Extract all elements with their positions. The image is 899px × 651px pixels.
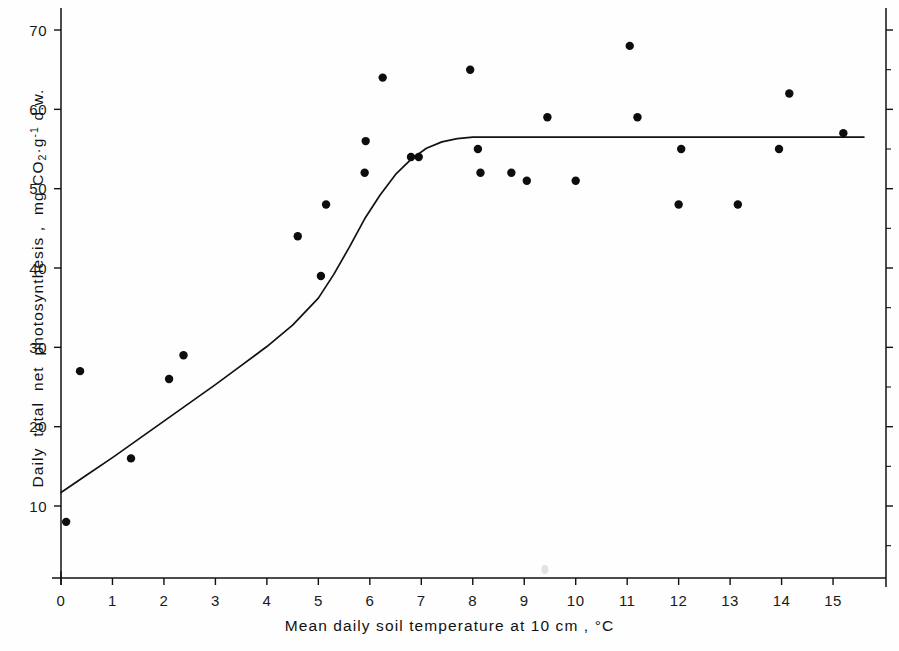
data-point bbox=[165, 375, 173, 383]
plot-background bbox=[0, 0, 899, 651]
data-point bbox=[572, 177, 580, 185]
x-tick-label: 12 bbox=[670, 592, 688, 609]
data-point bbox=[294, 232, 302, 240]
y-label-seg-4: d.w. bbox=[29, 89, 46, 121]
x-tick-label: 14 bbox=[773, 592, 791, 609]
y-label-superscript: -1 bbox=[28, 126, 40, 138]
data-point bbox=[734, 200, 742, 208]
x-tick-label: 10 bbox=[567, 592, 585, 609]
x-axis-label: Mean daily soil temperature at 10 cm , °… bbox=[0, 617, 899, 635]
x-tick-label: 2 bbox=[160, 592, 169, 609]
scan-artifact bbox=[541, 565, 548, 574]
data-point bbox=[378, 73, 386, 81]
x-tick-label: 3 bbox=[211, 592, 220, 609]
x-tick-label: 1 bbox=[108, 592, 117, 609]
data-point bbox=[415, 153, 423, 161]
data-point bbox=[476, 169, 484, 177]
data-point bbox=[474, 145, 482, 153]
data-point bbox=[507, 169, 515, 177]
y-axis-label-text: Daily total net photosynthesis , mg CO2·… bbox=[29, 89, 46, 488]
y-label-seg-2: ·g bbox=[29, 137, 46, 153]
data-point bbox=[360, 169, 368, 177]
data-point bbox=[626, 42, 634, 50]
x-tick-label: 15 bbox=[824, 592, 842, 609]
data-point bbox=[362, 137, 370, 145]
x-tick-label: 13 bbox=[721, 592, 739, 609]
y-axis-label: Daily total net photosynthesis , mg CO2·… bbox=[28, 8, 48, 568]
x-tick-label: 4 bbox=[262, 592, 271, 609]
data-point bbox=[179, 351, 187, 359]
x-tick-label: 9 bbox=[520, 592, 529, 609]
x-axis-label-text: Mean daily soil temperature at 10 cm , °… bbox=[285, 617, 615, 634]
y-label-subscript: 2 bbox=[36, 153, 48, 160]
data-point bbox=[76, 367, 84, 375]
data-point bbox=[633, 113, 641, 121]
data-point bbox=[466, 65, 474, 73]
data-point bbox=[674, 200, 682, 208]
data-point bbox=[543, 113, 551, 121]
x-tick-label: 5 bbox=[314, 592, 323, 609]
data-point bbox=[677, 145, 685, 153]
scan-speck bbox=[541, 565, 548, 574]
y-label-seg-3 bbox=[29, 121, 46, 126]
data-point bbox=[785, 89, 793, 97]
data-point bbox=[407, 153, 415, 161]
data-point bbox=[839, 129, 847, 137]
data-point bbox=[62, 518, 70, 526]
data-point bbox=[322, 200, 330, 208]
x-tick-label: 0 bbox=[57, 592, 66, 609]
data-point bbox=[775, 145, 783, 153]
scatter-plot: 0123456789101112131415 10203040506070 bbox=[0, 0, 899, 651]
figure-canvas: 0123456789101112131415 10203040506070 Me… bbox=[0, 0, 899, 651]
data-point bbox=[317, 272, 325, 280]
y-label-seg-1: Daily total net photosynthesis , mg CO bbox=[29, 160, 46, 487]
x-tick-label: 8 bbox=[468, 592, 477, 609]
x-tick-label: 6 bbox=[365, 592, 374, 609]
x-tick-label: 7 bbox=[417, 592, 426, 609]
data-point bbox=[127, 454, 135, 462]
data-point bbox=[523, 177, 531, 185]
x-tick-label: 11 bbox=[619, 592, 636, 609]
